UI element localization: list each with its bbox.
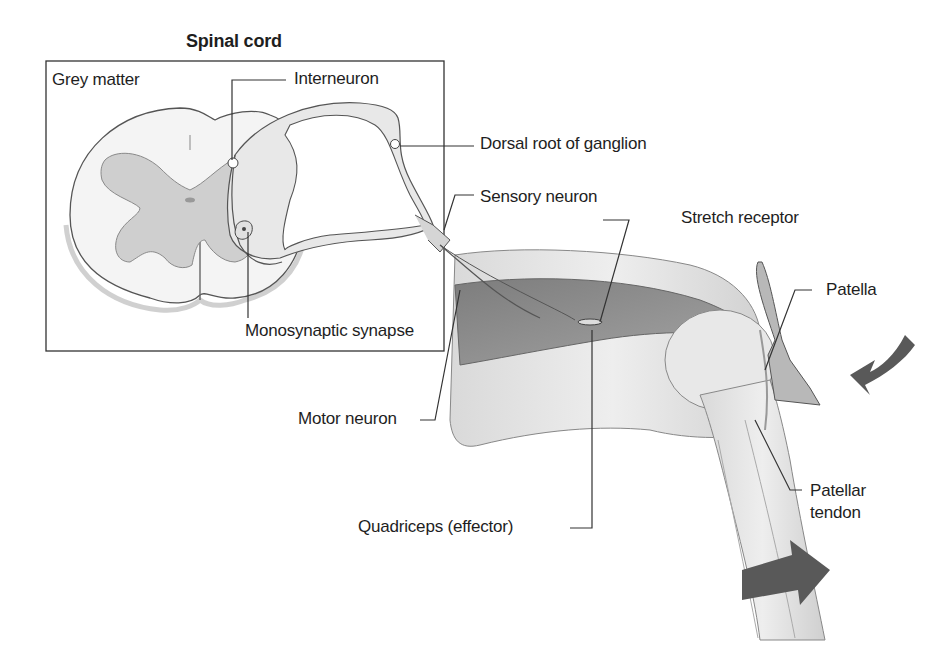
dorsal-root-ganglion-cell [391,140,400,149]
label-patellar-tendon-line1: Patellar [810,481,866,501]
label-patellar-tendon-line2: tendon [810,503,861,523]
interneuron-cell-body [228,158,238,168]
label-interneuron: Interneuron [294,69,379,89]
label-patella: Patella [826,280,877,300]
reflex-arc-diagram [0,0,943,667]
stretch-receptor-shape [578,319,602,325]
leg-illustration [440,245,915,640]
label-sensory-neuron: Sensory neuron [480,187,597,207]
label-quadriceps: Quadriceps (effector) [358,517,513,537]
tap-direction-arrow [850,335,915,395]
diagram-title: Spinal cord [186,31,282,52]
label-stretch-receptor: Stretch receptor [681,208,799,228]
label-grey-matter: Grey matter [52,70,140,90]
label-monosynaptic-synapse: Monosynaptic synapse [245,321,414,341]
label-dorsal-root: Dorsal root of ganglion [480,134,646,154]
label-motor-neuron: Motor neuron [298,409,397,429]
